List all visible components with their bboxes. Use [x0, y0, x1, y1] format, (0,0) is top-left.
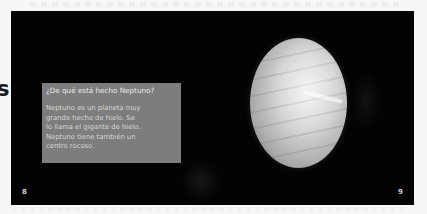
info-box-title: ¿De qué está hecho Neptuno? — [46, 86, 177, 96]
info-box-line: Neptuno tiene también un — [46, 133, 177, 143]
info-box-body: Neptuno es un planeta muy grande hecho d… — [46, 104, 177, 152]
bleed-through-top — [30, 2, 400, 7]
info-box: ¿De qué está hecho Neptuno? Neptuno es u… — [42, 83, 181, 163]
neptune-image — [250, 38, 347, 168]
space-glow — [351, 71, 381, 131]
bleed-through-letter: s — [0, 79, 10, 100]
page-number-left: 8 — [22, 188, 27, 196]
info-box-line: Neptuno es un planeta muy — [46, 104, 177, 114]
info-box-line: centro rocoso. — [46, 142, 177, 152]
info-box-line: grande hecho de hielo. Se — [46, 114, 177, 124]
space-glow — [181, 161, 221, 201]
info-box-line: lo llama el gigante de hielo. — [46, 123, 177, 133]
book-spread: ¿De qué está hecho Neptuno? Neptuno es u… — [11, 11, 414, 205]
page-number-right: 9 — [398, 188, 403, 196]
bleed-through-bottom — [12, 207, 407, 211]
